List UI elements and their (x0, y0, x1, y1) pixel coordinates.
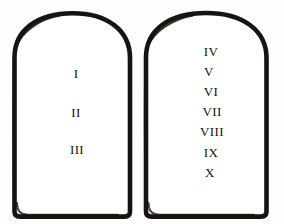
numeral-x: X (205, 166, 215, 179)
tablets-illustration: I II III IV V VI VII VIII IX X (0, 0, 284, 224)
numeral-vi: VI (204, 85, 219, 98)
numeral-iii: III (70, 143, 84, 156)
numeral-vii: VII (202, 105, 221, 118)
numeral-ix: IX (204, 146, 219, 159)
numeral-v: V (204, 65, 214, 78)
numeral-i: I (74, 67, 79, 80)
numerals-layer: I II III IV V VI VII VIII IX X (0, 0, 284, 224)
numeral-ii: II (71, 106, 80, 119)
numeral-viii: VIII (200, 125, 224, 138)
numeral-iv: IV (204, 45, 219, 58)
